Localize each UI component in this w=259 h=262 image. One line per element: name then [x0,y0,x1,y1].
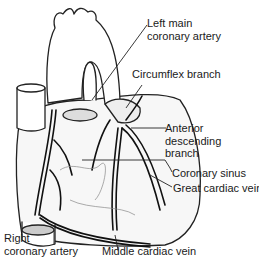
label-line: Coronary sinus [172,167,246,180]
label-anterior-descending-branch: Anterior descending branch [165,122,221,160]
heart-diagram: Left main coronary artery Circumflex bra… [0,0,259,262]
label-great-cardiac-vein: Great cardiac vein [173,182,259,195]
label-line: Middle cardiac vein [102,245,196,258]
label-right-coronary-artery: Right coronary artery [4,232,78,257]
label-line: Circumflex branch [132,68,221,81]
label-line: branch [165,147,221,160]
label-middle-cardiac-vein: Middle cardiac vein [102,245,196,258]
label-circumflex-branch: Circumflex branch [132,68,221,81]
label-left-main-coronary-artery: Left main coronary artery [147,17,221,42]
label-coronary-sinus: Coronary sinus [172,167,246,180]
label-line: descending [165,135,221,148]
label-line: coronary artery [147,30,221,43]
label-line: Left main [147,17,221,30]
label-line: Right [4,232,78,245]
label-line: Anterior [165,122,221,135]
label-line: Great cardiac vein [173,182,259,195]
label-line: coronary artery [4,245,78,258]
